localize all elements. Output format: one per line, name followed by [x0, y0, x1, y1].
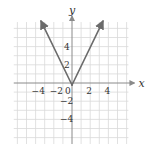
- y-tick-label: −4: [60, 114, 74, 124]
- x-tick-label: 4: [104, 86, 110, 96]
- y-tick-label: 4: [64, 42, 70, 52]
- x-axis-label: x: [138, 77, 145, 90]
- x-tick-label: −2: [50, 86, 63, 96]
- y-axis-label: y: [68, 4, 76, 17]
- graph-left-branch: [41, 21, 72, 85]
- x-tick-label: 0: [65, 86, 71, 96]
- y-tick-label: −2: [60, 96, 73, 106]
- graph-vertex: [71, 84, 73, 86]
- function-graph: −4−202442−2−4 x y: [0, 0, 145, 144]
- graph-right-branch: [72, 21, 103, 85]
- x-tick-label: −4: [32, 86, 46, 96]
- y-tick-label: 2: [64, 60, 70, 70]
- x-tick-label: 2: [86, 86, 92, 96]
